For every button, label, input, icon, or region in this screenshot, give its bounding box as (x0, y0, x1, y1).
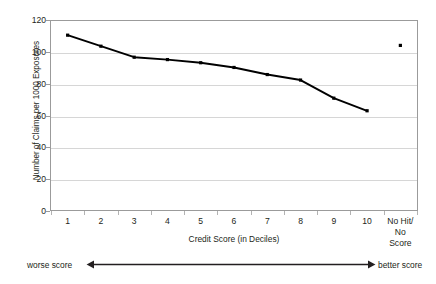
y-ticklabel-40: 40 (2, 142, 46, 152)
data-point-marker (133, 56, 136, 59)
data-series-layer (51, 21, 417, 210)
x-tickmark-6 (251, 211, 252, 215)
data-point-marker (66, 34, 69, 37)
x-ticklabel-1: 1 (65, 216, 70, 227)
x-ticklabel-6: 6 (232, 216, 237, 227)
x-axis-title: Credit Score (in Deciles) (50, 234, 418, 244)
data-point-marker (266, 73, 269, 76)
x-ticklabel-9: 9 (331, 216, 336, 227)
x-ticklabel-10: 10 (362, 216, 372, 227)
x-tickmark-5 (217, 211, 218, 215)
y-ticklabel-80: 80 (2, 79, 46, 89)
worse-score-label: worse score (27, 260, 72, 270)
x-ticklabel-4: 4 (165, 216, 170, 227)
x-ticklabel-3: 3 (132, 216, 137, 227)
chart-figure: Number of Claims per 1000 Exposures 120 … (0, 0, 436, 284)
x-ticklabel-5: 5 (198, 216, 203, 227)
x-tickmark-8 (317, 211, 318, 215)
plot-inner (51, 21, 417, 210)
x-ticklabel-2: 2 (99, 216, 104, 227)
data-point-marker (365, 109, 368, 112)
x-tickmark-3 (151, 211, 152, 215)
x-ticklabel-8: 8 (298, 216, 303, 227)
y-ticklabel-0: 0 (2, 206, 46, 216)
x-tickmark-1 (84, 211, 85, 215)
x-ticklabel-11: No Hit/ No Score (383, 216, 419, 249)
x-tickmark-2 (118, 211, 119, 215)
x-tickmark-9 (350, 211, 351, 215)
double-arrow-icon (88, 258, 374, 274)
data-point-marker (199, 61, 202, 64)
data-point-marker (332, 97, 335, 100)
x-ticklabel-7: 7 (265, 216, 270, 227)
y-axis-ticklabels: 120 100 80 60 40 20 0 (0, 0, 46, 284)
series-line-0 (68, 35, 367, 111)
data-point-marker (299, 78, 302, 81)
score-direction-annotation: worse score better score (0, 258, 436, 278)
x-tickmark-7 (284, 211, 285, 215)
data-point-marker (232, 66, 235, 69)
y-ticklabel-20: 20 (2, 174, 46, 184)
y-ticklabel-120: 120 (2, 15, 46, 25)
y-ticklabel-100: 100 (2, 47, 46, 57)
x-tickmark-10 (384, 211, 385, 215)
y-ticklabel-60: 60 (2, 111, 46, 121)
x-tickmark-11 (417, 211, 418, 215)
x-tickmark-4 (184, 211, 185, 215)
data-point-marker (99, 45, 102, 48)
plot-area (50, 20, 418, 211)
better-score-label: better score (378, 260, 422, 270)
x-tickmark-0 (51, 211, 52, 215)
data-point-marker (166, 58, 169, 61)
data-point-marker (399, 44, 402, 47)
